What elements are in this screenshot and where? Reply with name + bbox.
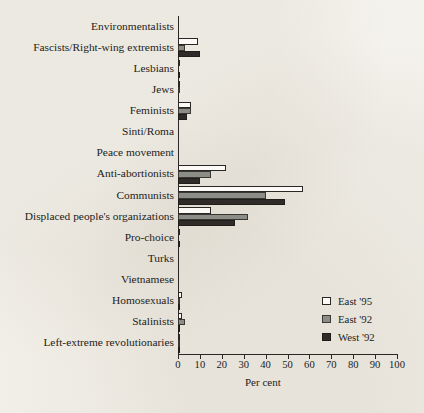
black-square-swatch-icon [322, 333, 331, 341]
category-label: Pro-choice [125, 232, 174, 243]
x-axis-tick-label: 90 [370, 360, 381, 371]
bar [178, 87, 180, 93]
x-axis-tick-label: 0 [175, 360, 180, 371]
x-axis-tick-label: 40 [260, 360, 271, 371]
category-label: Peace movement [97, 147, 175, 158]
bar-chart-figure: EnvironmentalistsFascists/Right-wing ext… [0, 0, 424, 413]
bar [178, 220, 235, 226]
white-square-swatch-icon [322, 297, 331, 305]
category-label: Feminists [130, 105, 174, 116]
category-label: Anti-abortionists [97, 168, 174, 179]
category-label: Lesbians [134, 63, 175, 74]
x-axis-title: Per cent [245, 376, 281, 388]
category-label: Vietnamese [121, 274, 174, 285]
category-label: Left-extreme revolutionaries [43, 337, 174, 348]
legend-item: West '92 [322, 332, 375, 343]
bar [178, 199, 285, 205]
category-label: Displaced people's organizations [25, 211, 174, 222]
category-label: Stalinists [132, 316, 174, 327]
legend-item: East '92 [322, 314, 375, 325]
x-axis-tick-label: 100 [389, 360, 405, 371]
bar [178, 347, 180, 353]
category-label: Sinti/Roma [122, 126, 174, 137]
category-label: Environmentalists [91, 21, 174, 32]
bar [178, 114, 187, 120]
bar [178, 241, 180, 247]
bar [178, 51, 200, 57]
x-axis-tick-label: 60 [304, 360, 315, 371]
legend-item-label: East '92 [338, 314, 372, 325]
category-label: Turks [148, 253, 174, 264]
x-axis-tick-label: 70 [326, 360, 337, 371]
x-axis-tick-label: 50 [282, 360, 293, 371]
bar [178, 72, 180, 78]
legend-item-label: West '92 [338, 332, 375, 343]
bar [178, 304, 180, 310]
category-label: Communists [116, 190, 174, 201]
x-axis-tick-label: 20 [217, 360, 228, 371]
bar [178, 229, 180, 235]
category-label: Fascists/Right-wing extremists [33, 42, 174, 53]
bar [178, 60, 180, 66]
bar [178, 178, 200, 184]
x-axis-tick-label: 10 [195, 360, 206, 371]
chart-legend: East '95 East '92 West '92 [322, 296, 375, 349]
x-axis-tick-label: 30 [238, 360, 249, 371]
legend-item: East '95 [322, 296, 375, 307]
x-axis-tick-label: 80 [348, 360, 359, 371]
bar [178, 325, 180, 331]
gray-square-swatch-icon [322, 315, 331, 323]
category-label: Jews [152, 84, 174, 95]
legend-item-label: East '95 [338, 296, 372, 307]
category-label: Homosexuals [112, 295, 174, 306]
